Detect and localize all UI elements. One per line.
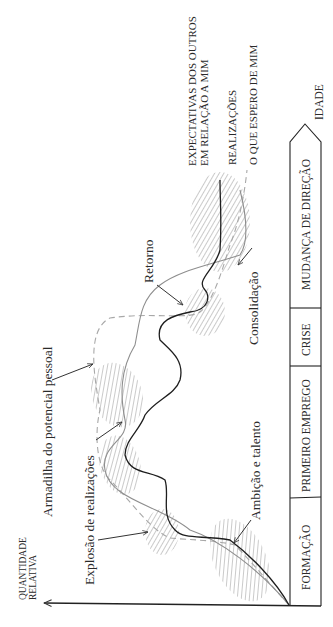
y-axis-label: QUANTIDADE RELATIVA (18, 537, 38, 600)
annotation-ambition: Ambição e talento (248, 421, 264, 520)
annotation-consolidation: Consolidação (246, 272, 262, 346)
legend-others-expectations-line2: EM RELAÇÃO A MIM (198, 16, 210, 166)
region-explosion-high (93, 431, 147, 499)
stage-mudanca-de-direcao: MUDANÇA DE DIREÇÃO (300, 159, 312, 290)
arrow-explosion-low (98, 532, 148, 540)
axes (44, 603, 321, 606)
y-axis-label-line1: QUANTIDADE (18, 537, 28, 600)
region-explosion-low (145, 509, 179, 555)
stage-formacao: FORMAÇÃO (300, 525, 312, 590)
region-ambition (198, 509, 282, 611)
legend-self-expectations: O QUE ESPERO DE MIM (247, 45, 259, 165)
arrow-return (157, 285, 183, 305)
legend-others-expectations-line1: EXPECTATIVAS DOS OUTROS (186, 16, 198, 166)
stage-divider-1 (290, 497, 321, 498)
y-axis-label-line2: RELATIVA (28, 537, 38, 600)
annotation-trap: Armadilha do potencial pessoal (40, 346, 56, 517)
arrow-trap (52, 364, 93, 380)
legend-achievements: REALIZAÇÕES (226, 90, 238, 165)
stage-crise: CRISE (300, 323, 312, 356)
x-axis-label: IDADE (313, 84, 325, 120)
stage-primeiro-emprego: PRIMEIRO EMPREGO (300, 379, 312, 492)
quantity-axis (44, 603, 321, 606)
annotation-explosion: Explosão de realizações (82, 455, 98, 585)
legend-others-expectations: EXPECTATIVAS DOS OUTROS EM RELAÇÃO A MIM (186, 16, 210, 166)
life-stages-diagram (0, 0, 333, 627)
hatched-regions (82, 172, 282, 611)
annotation-return: Retorno (141, 240, 157, 284)
